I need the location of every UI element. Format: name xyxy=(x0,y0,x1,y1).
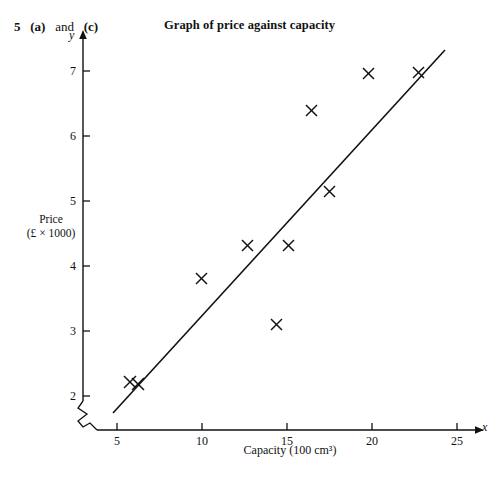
data-point-marker xyxy=(271,319,282,330)
x-tick-label-25: 25 xyxy=(446,434,468,449)
y-tick-label-7: 7 xyxy=(58,64,76,79)
data-point-marker xyxy=(324,186,335,197)
y-tick-label-2: 2 xyxy=(58,389,76,404)
y-axis-group xyxy=(79,30,87,401)
x-tick-label-15: 15 xyxy=(276,434,298,449)
y-axis-ticks xyxy=(83,71,90,396)
data-point-marker xyxy=(132,378,144,390)
data-point-marker xyxy=(363,68,374,79)
data-point-marker xyxy=(413,67,424,78)
trend-line xyxy=(113,50,445,413)
data-point-marker xyxy=(242,240,253,251)
x-axis-group xyxy=(97,426,484,434)
y-tick-label-5: 5 xyxy=(58,194,76,209)
x-axis-ticks xyxy=(117,423,457,430)
data-point-marker xyxy=(283,240,294,251)
x-tick-label-5: 5 xyxy=(106,434,128,449)
x-tick-label-10: 10 xyxy=(191,434,213,449)
chart-page: . . . . . 5 (a) and (c) Graph of price a… xyxy=(0,0,499,478)
x-tick-label-20: 20 xyxy=(361,434,383,449)
data-point-marker xyxy=(124,376,136,388)
axis-break-zigzag xyxy=(78,401,97,430)
data-points-group xyxy=(124,67,424,390)
y-tick-label-3: 3 xyxy=(58,324,76,339)
x-axis-arrowhead xyxy=(475,426,484,434)
data-point-marker xyxy=(306,105,317,116)
y-tick-label-6: 6 xyxy=(58,129,76,144)
y-tick-label-4: 4 xyxy=(58,259,76,274)
y-axis-arrowhead xyxy=(79,30,87,39)
data-point-marker xyxy=(196,273,207,284)
